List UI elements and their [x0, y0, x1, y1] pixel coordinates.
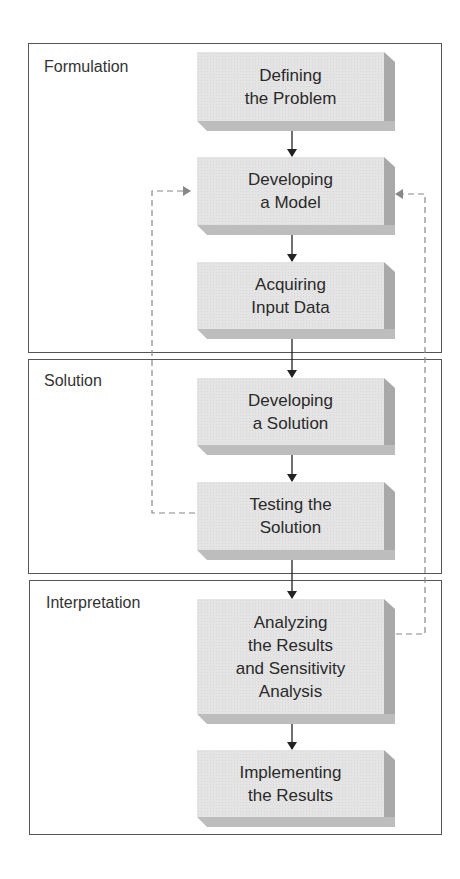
step-defining-the-problem: Defining the Problem	[197, 52, 395, 131]
step-implementing-the-results: Implementing the Results	[197, 750, 395, 827]
step-testing-the-solution: Testing the Solution	[197, 482, 395, 560]
step-label: Implementing the Results	[239, 761, 341, 807]
feedback-testing-to-model	[152, 191, 195, 513]
step-acquiring-input-data: Acquiring Input Data	[197, 262, 395, 339]
step-label: Defining the Problem	[245, 64, 337, 110]
step-label: Developing a Solution	[248, 389, 333, 435]
step-label: Developing a Model	[248, 168, 333, 214]
step-label: Analyzing the Results and Sensitivity An…	[236, 611, 346, 703]
step-analyzing-the-results: Analyzing the Results and Sensitivity An…	[197, 599, 395, 724]
step-label: Acquiring Input Data	[251, 273, 329, 319]
feedback-analyzing-to-model	[396, 194, 425, 634]
step-developing-a-solution: Developing a Solution	[197, 378, 395, 455]
step-developing-a-model: Developing a Model	[197, 157, 395, 235]
step-label: Testing the Solution	[249, 493, 331, 539]
